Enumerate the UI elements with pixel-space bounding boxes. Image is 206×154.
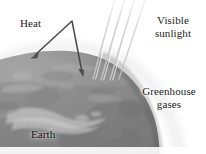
label-heat: Heat bbox=[20, 17, 41, 30]
label-greenhouse-gases: Greenhousegases bbox=[137, 85, 201, 110]
label-visible-sunlight-line1: Visible bbox=[157, 14, 189, 26]
greenhouse-effect-figure: Heat Visiblesunlight Greenhousegases Ear… bbox=[0, 0, 206, 154]
label-greenhouse-gases-line1: Greenhouse bbox=[142, 85, 196, 97]
label-visible-sunlight: Visiblesunlight bbox=[146, 14, 200, 39]
bottom-margin bbox=[0, 147, 206, 154]
label-visible-sunlight-line2: sunlight bbox=[155, 27, 191, 39]
label-greenhouse-gases-line2: gases bbox=[157, 98, 181, 110]
label-earth: Earth bbox=[31, 128, 55, 141]
